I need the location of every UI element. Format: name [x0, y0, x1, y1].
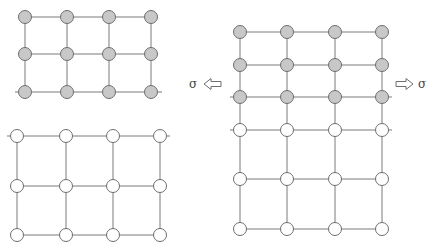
- atom-surface-node: [103, 86, 116, 99]
- atom-surface-node: [145, 86, 158, 99]
- atom-node: [329, 124, 342, 137]
- atom-node: [376, 124, 389, 137]
- hollow-arrow-left-icon: [204, 79, 221, 90]
- atom-node: [60, 130, 73, 143]
- atom-surface-node: [145, 48, 158, 61]
- right-lattice-strained: [230, 26, 392, 236]
- atom-node: [11, 229, 24, 242]
- atom-node: [234, 173, 247, 186]
- atom-node: [154, 130, 167, 143]
- atom-surface-node: [103, 48, 116, 61]
- atom-node: [281, 173, 294, 186]
- atom-surface-node: [281, 91, 294, 104]
- atom-surface-node: [19, 11, 32, 24]
- atom-node: [154, 229, 167, 242]
- atom-surface-node: [234, 91, 247, 104]
- atom-node: [281, 124, 294, 137]
- atom-surface-node: [234, 59, 247, 72]
- atom-surface-node: [281, 59, 294, 72]
- bottom-left-lattice-bulk: [7, 130, 170, 242]
- atom-surface-node: [145, 11, 158, 24]
- diagram-svg: σ σ: [0, 0, 432, 250]
- stress-label-right: σ: [418, 77, 426, 91]
- atom-surface-node: [329, 59, 342, 72]
- atom-node: [281, 223, 294, 236]
- atom-node: [376, 223, 389, 236]
- stress-arrow-right: σ: [396, 77, 426, 91]
- lattices-group: [7, 11, 392, 242]
- atom-surface-node: [329, 26, 342, 39]
- atom-node: [234, 223, 247, 236]
- atom-surface-node: [61, 86, 74, 99]
- atom-surface-node: [61, 11, 74, 24]
- atom-node: [154, 180, 167, 193]
- top-left-lattice-surface: [15, 11, 162, 99]
- atom-surface-node: [234, 26, 247, 39]
- atom-node: [329, 173, 342, 186]
- atom-node: [107, 180, 120, 193]
- atom-node: [376, 173, 389, 186]
- atom-node: [60, 180, 73, 193]
- lattice-strain-diagram: σ σ: [0, 0, 432, 250]
- atom-surface-node: [376, 91, 389, 104]
- hollow-arrow-right-icon: [396, 79, 413, 90]
- atom-node: [11, 180, 24, 193]
- atom-surface-node: [19, 86, 32, 99]
- atom-surface-node: [376, 26, 389, 39]
- stress-label-left: σ: [189, 77, 197, 91]
- atom-surface-node: [329, 91, 342, 104]
- atom-node: [107, 130, 120, 143]
- atom-surface-node: [61, 48, 74, 61]
- atom-node: [329, 223, 342, 236]
- atom-node: [234, 124, 247, 137]
- atom-node: [60, 229, 73, 242]
- atom-surface-node: [376, 59, 389, 72]
- stress-arrow-left: σ: [189, 77, 221, 91]
- atom-surface-node: [281, 26, 294, 39]
- atom-node: [11, 130, 24, 143]
- atom-surface-node: [103, 11, 116, 24]
- atom-surface-node: [19, 48, 32, 61]
- atom-node: [107, 229, 120, 242]
